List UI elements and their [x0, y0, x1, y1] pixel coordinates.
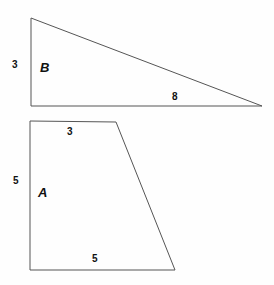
triangle-b-base-label: 8 — [172, 92, 178, 102]
trapezoid-a-name-label: A — [38, 186, 47, 199]
triangle-b-name-label: B — [40, 61, 49, 74]
figure-canvas — [0, 0, 274, 285]
trapezoid-a-top-label: 3 — [67, 127, 73, 137]
canvas-background — [0, 0, 274, 285]
triangle-b-height-label: 3 — [12, 60, 18, 70]
geometry-figure-page: { "figure": { "background_color": "#fefe… — [0, 0, 274, 285]
trapezoid-a-bottom-label: 5 — [92, 254, 98, 264]
trapezoid-a-left-label: 5 — [13, 176, 19, 186]
